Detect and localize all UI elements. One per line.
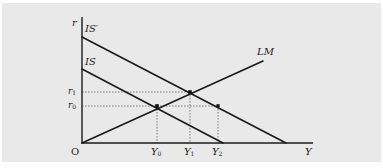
y2-label: Y2 [212,147,222,157]
y2-sub: 2 [219,150,223,157]
y0-sub: 0 [158,150,162,157]
is-label: IS [85,57,96,67]
equilibrium-point-e0 [155,104,159,108]
r1-sub: 1 [72,89,76,96]
equilibrium-point-e2 [216,104,219,107]
y2-base: Y [212,146,219,157]
y1-sub: 1 [191,150,195,157]
is-lm-diagram [0,0,383,168]
is-prime-label: IS′ [85,24,98,34]
r0-sub: 0 [72,103,76,110]
r1-label: r1 [68,87,76,96]
y-axis-label: r [72,18,77,28]
equilibrium-point-e1 [188,90,192,94]
lm-curve [82,61,263,143]
is-prime-curve [82,37,286,143]
y1-label: Y1 [184,147,194,157]
x-axis-label: Y [305,147,312,157]
y1-base: Y [184,146,191,157]
origin-label: O [71,147,79,157]
r0-label: r0 [68,101,76,110]
y0-base: Y [151,146,158,157]
y0-label: Y0 [151,147,161,157]
lm-label: LM [257,47,274,57]
